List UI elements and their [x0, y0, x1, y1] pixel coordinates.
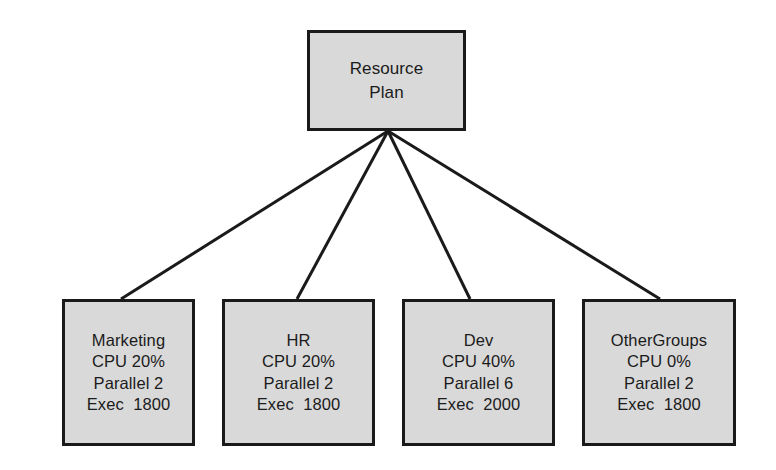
node-othergroups[interactable]: OtherGroups CPU 0% Parallel 2 Exec 1800	[582, 299, 736, 446]
node-dev-cpu: CPU 40%	[442, 351, 515, 372]
node-marketing-exec: Exec 1800	[87, 394, 171, 415]
node-marketing-name: Marketing	[92, 330, 165, 351]
node-marketing[interactable]: Marketing CPU 20% Parallel 2 Exec 1800	[62, 299, 195, 446]
node-dev-parallel: Parallel 6	[444, 373, 514, 394]
node-hr[interactable]: HR CPU 20% Parallel 2 Exec 1800	[222, 299, 375, 446]
node-othergroups-parallel: Parallel 2	[624, 373, 694, 394]
node-othergroups-cpu: CPU 0%	[627, 351, 691, 372]
diagram-canvas: Resource Plan Marketing CPU 20% Parallel…	[0, 0, 776, 470]
node-resource-plan-line-1: Resource	[350, 57, 424, 81]
node-othergroups-exec: Exec 1800	[617, 394, 701, 415]
node-hr-parallel: Parallel 2	[264, 373, 334, 394]
node-dev-exec: Exec 2000	[437, 394, 521, 415]
node-marketing-parallel: Parallel 2	[94, 373, 164, 394]
node-dev-name: Dev	[464, 330, 494, 351]
node-othergroups-name: OtherGroups	[611, 330, 707, 351]
edge-root-to-marketing	[121, 131, 388, 299]
edge-root-to-hr	[297, 131, 388, 299]
node-marketing-cpu: CPU 20%	[92, 351, 165, 372]
node-hr-name: HR	[286, 330, 310, 351]
node-dev[interactable]: Dev CPU 40% Parallel 6 Exec 2000	[402, 299, 555, 446]
node-hr-cpu: CPU 20%	[262, 351, 335, 372]
node-resource-plan-line-2: Plan	[369, 81, 403, 105]
node-resource-plan[interactable]: Resource Plan	[307, 30, 466, 131]
node-hr-exec: Exec 1800	[257, 394, 341, 415]
